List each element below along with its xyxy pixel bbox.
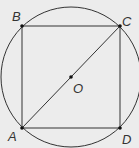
label-c: C [122, 14, 132, 29]
point-o [69, 75, 73, 79]
label-a: A [7, 129, 17, 144]
label-d: D [122, 132, 131, 147]
point-a [20, 126, 24, 130]
label-o: O [73, 81, 83, 96]
label-b: B [12, 9, 21, 24]
geometry-diagram: B C O A D [0, 0, 139, 148]
point-b [20, 24, 24, 28]
point-d [118, 126, 122, 130]
